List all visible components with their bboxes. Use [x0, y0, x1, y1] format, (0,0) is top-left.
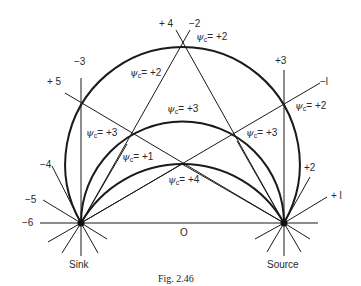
psi-label: ψc= +4 [168, 175, 199, 185]
label-plus2: +2 [304, 163, 315, 173]
label-minus5: −5 [25, 195, 36, 205]
label-minus3: −3 [74, 57, 85, 67]
sink-point [78, 220, 85, 227]
label-plus5: + 5 [47, 77, 61, 87]
sink-label: Sink [69, 260, 88, 270]
psi-label: ψc= +3 [86, 128, 117, 138]
label-minus1: −l [320, 77, 328, 87]
psi-label: ψc= +2 [295, 101, 326, 111]
inner-arc [81, 164, 284, 223]
figure-caption: Fig. 2.46 [158, 273, 194, 284]
psi-label: ψc= +1 [122, 152, 153, 162]
origin-label: O [180, 228, 188, 238]
label-minus6: −6 [22, 218, 33, 228]
source-label: Source [267, 260, 299, 270]
label-plus3: +3 [275, 56, 286, 66]
label-minus4: −4 [40, 160, 51, 170]
label-plus4: + 4 [159, 19, 173, 29]
label-plus1: + l [331, 191, 342, 201]
flow-net-diagram [0, 0, 361, 286]
psi-label: ψc= +2 [196, 32, 227, 42]
psi-label: ψc= +3 [246, 128, 277, 138]
psi-label: ψc= +3 [167, 104, 198, 114]
source-point [281, 220, 288, 227]
label-minus2: −2 [189, 19, 200, 29]
psi-label: ψc= +2 [130, 68, 161, 78]
figure-2-46: −6 −5 −4 −3 + 5 + 4 −2 +3 −l +2 + l ψc= … [0, 0, 361, 286]
